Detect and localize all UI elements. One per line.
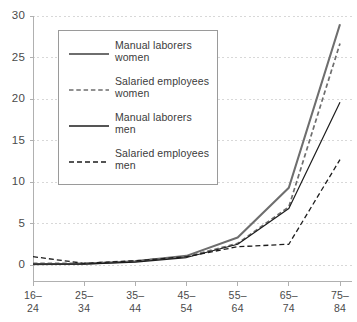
x-tick-label: 75–84: [318, 289, 357, 314]
x-tick-label: 65–74: [267, 289, 311, 314]
chart-container: 302520151050 16–2425–3435–4445–5455–6465…: [0, 0, 357, 322]
legend-label: Salaried employeesmen: [115, 147, 217, 171]
legend-label: Manual laborersmen: [115, 111, 217, 135]
legend-label-line2: women: [115, 87, 217, 99]
legend-label-line1: Salaried employees: [115, 75, 217, 87]
x-tick-label: 25–34: [62, 289, 106, 314]
legend-entry: Manual laborerswomen: [59, 39, 219, 73]
y-tick-label: 10: [3, 175, 25, 187]
y-tick-label: 5: [3, 217, 25, 229]
legend-entry: Manual laborersmen: [59, 111, 219, 145]
legend-swatch: [69, 117, 109, 127]
y-tick-label: 15: [3, 134, 25, 146]
legend-label-line1: Salaried employees: [115, 147, 217, 159]
legend-label-line2: men: [115, 123, 217, 135]
legend-entry: Salaried employeeswomen: [59, 75, 219, 109]
x-tick-label-line1: 16–: [11, 289, 55, 302]
x-tick-label: 55–64: [216, 289, 260, 314]
y-tick-label: 20: [3, 92, 25, 104]
chart-legend: Manual laborerswomenSalaried employeeswo…: [58, 30, 218, 185]
y-tick-label: 25: [3, 51, 25, 63]
figure-caption: [8, 313, 357, 322]
y-tick-label: 0: [3, 258, 25, 270]
legend-swatch: [69, 153, 109, 163]
legend-swatch: [69, 45, 109, 55]
x-tick-label-line1: 65–: [267, 289, 311, 302]
x-tick-label: 35–44: [113, 289, 157, 314]
legend-label-line1: Manual laborers: [115, 39, 217, 51]
x-tick-label: 45–54: [165, 289, 209, 314]
legend-entry: Salaried employeesmen: [59, 147, 219, 181]
legend-label-line1: Manual laborers: [115, 111, 217, 123]
x-tick-label-line1: 45–: [165, 289, 209, 302]
legend-label: Salaried employeeswomen: [115, 75, 217, 99]
legend-label-line2: women: [115, 51, 217, 63]
x-tick-label-line1: 75–: [318, 289, 357, 302]
legend-label-line2: men: [115, 159, 217, 171]
x-tick-label-line1: 35–: [113, 289, 157, 302]
legend-swatch: [69, 81, 109, 91]
x-tick-label: 16–24: [11, 289, 55, 314]
x-tick-label-line1: 55–: [216, 289, 260, 302]
y-tick-label: 30: [3, 9, 25, 21]
legend-label: Manual laborerswomen: [115, 39, 217, 63]
x-tick-label-line1: 25–: [62, 289, 106, 302]
